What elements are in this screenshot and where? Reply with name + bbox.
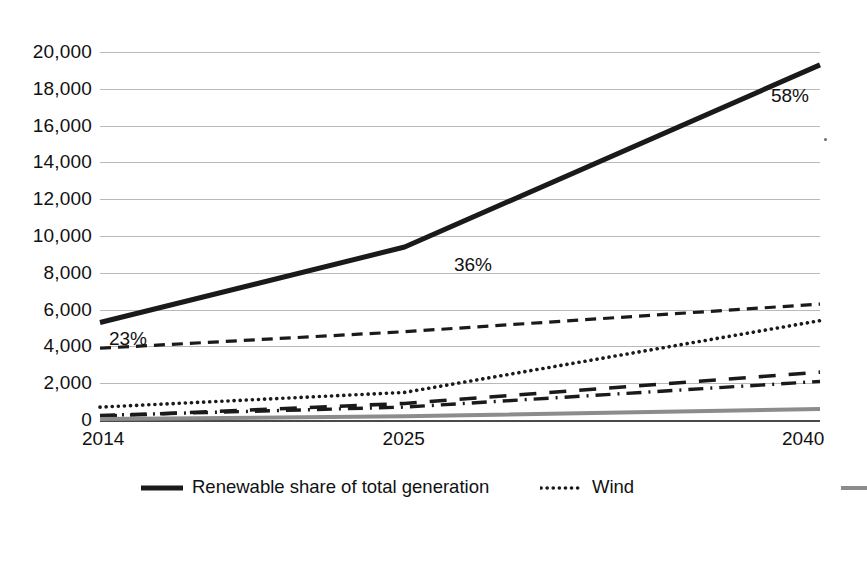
chart-figure: 02,0004,0006,0008,00010,00012,00014,0001… xyxy=(0,0,867,583)
legend-swatch-icon xyxy=(840,481,867,495)
value-annotation: 23% xyxy=(109,328,147,350)
y-tick-label: 8,000 xyxy=(0,262,92,284)
legend-item-label: Renewable share of total generation xyxy=(192,478,489,497)
y-tick-label: 16,000 xyxy=(0,115,92,137)
series-layer xyxy=(100,52,820,420)
y-tick-label: 2,000 xyxy=(0,372,92,394)
y-tick-label: 4,000 xyxy=(0,335,92,357)
x-tick-label: 2025 xyxy=(383,428,425,450)
y-tick-label: 10,000 xyxy=(0,225,92,247)
y-tick-label: 12,000 xyxy=(0,188,92,210)
x-tick-label: 2014 xyxy=(82,428,124,450)
y-tick-label: 6,000 xyxy=(0,299,92,321)
series-line xyxy=(100,65,820,323)
y-tick-label: 14,000 xyxy=(0,151,92,173)
series-line xyxy=(100,321,820,407)
x-axis-tick-labels: 201420252040 xyxy=(0,428,867,456)
value-annotation: 36% xyxy=(454,254,492,276)
gridline xyxy=(100,420,820,422)
y-tick-label: 20,000 xyxy=(0,41,92,63)
y-tick-label: 18,000 xyxy=(0,78,92,100)
x-tick-label: 2040 xyxy=(782,428,824,450)
legend-swatch-icon xyxy=(540,481,584,495)
y-axis-tick-labels: 02,0004,0006,0008,00010,00012,00014,0001… xyxy=(0,52,92,420)
value-annotation: 58% xyxy=(771,85,809,107)
legend-swatch-icon xyxy=(140,481,184,495)
legend-item-label: Wind xyxy=(592,478,634,497)
series-line xyxy=(100,304,820,348)
chart-legend: Renewable share of total generationWindC… xyxy=(140,474,840,560)
plot-area: 23%36%58% xyxy=(100,52,820,420)
legend-item[interactable]: Concentrated Solar xyxy=(840,474,867,501)
scan-speck xyxy=(824,138,827,141)
legend-item[interactable]: Wind xyxy=(540,474,840,501)
legend-item[interactable]: Renewable share of total generation xyxy=(140,474,540,501)
